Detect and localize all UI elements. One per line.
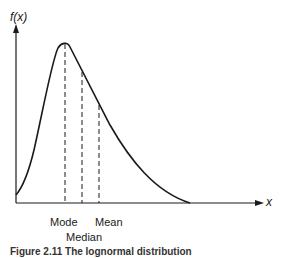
x-axis-label: x xyxy=(266,196,272,208)
y-axis-label: f(x) xyxy=(10,11,27,23)
density-curve xyxy=(16,43,190,203)
y-axis-arrow-icon xyxy=(13,24,19,33)
x-axis-arrow-icon xyxy=(255,200,264,206)
mean-label: Mean xyxy=(95,216,123,228)
mode-label: Mode xyxy=(50,216,78,228)
median-label: Median xyxy=(66,231,102,243)
figure-caption: Figure 2.11 The lognormal distribution xyxy=(10,246,192,258)
